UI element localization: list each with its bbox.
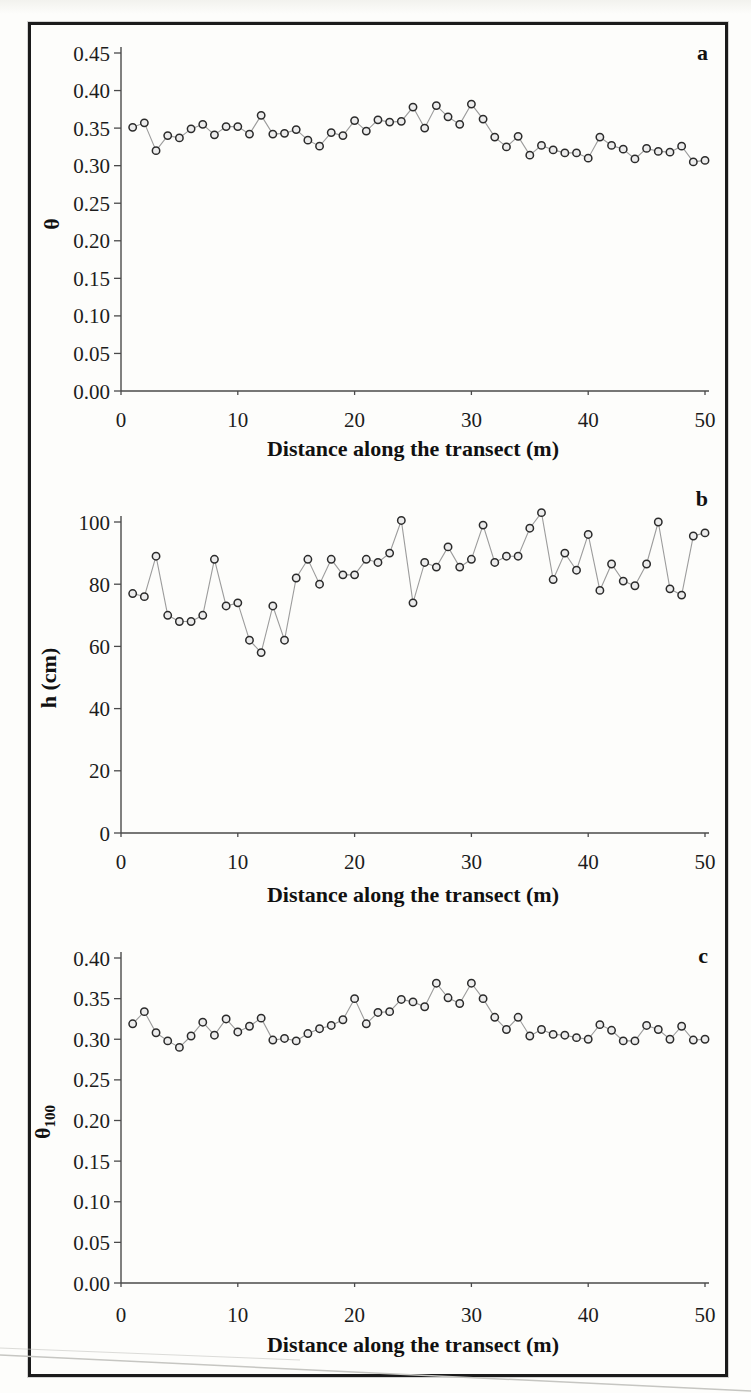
data-point <box>374 559 381 566</box>
data-point <box>444 543 451 550</box>
y-axis-title: θ <box>39 218 64 229</box>
data-point <box>129 590 136 597</box>
data-point <box>152 1029 159 1036</box>
data-point <box>141 1008 148 1015</box>
data-point <box>596 133 603 140</box>
data-point <box>666 585 673 592</box>
data-point <box>211 1031 218 1038</box>
data-series-line <box>133 983 705 1047</box>
data-point <box>234 599 241 606</box>
data-point <box>479 115 486 122</box>
data-point <box>526 1032 533 1039</box>
data-point <box>596 1021 603 1028</box>
data-point <box>293 126 300 133</box>
data-point <box>549 1031 556 1038</box>
data-point <box>479 521 486 528</box>
y-axis-title: h (cm) <box>36 648 61 708</box>
data-point <box>608 560 615 567</box>
data-point <box>538 509 545 516</box>
data-point <box>701 529 708 536</box>
data-point <box>398 118 405 125</box>
data-point <box>328 129 335 136</box>
data-point <box>573 1034 580 1041</box>
panel-letter: a <box>697 40 708 65</box>
x-tick-label: 20 <box>344 408 365 432</box>
data-point <box>257 112 264 119</box>
data-point <box>678 591 685 598</box>
data-point <box>211 131 218 138</box>
y-tick-label: 0.00 <box>73 380 110 404</box>
data-point <box>281 130 288 137</box>
y-tick-label: 0.20 <box>73 1109 110 1133</box>
data-point <box>561 549 568 556</box>
data-point <box>468 979 475 986</box>
x-tick-label: 0 <box>116 1303 127 1327</box>
scan-artifact-diagonal <box>0 1355 751 1391</box>
data-point <box>643 560 650 567</box>
data-point <box>211 556 218 563</box>
data-point <box>316 142 323 149</box>
panel-a: 0.450.400.350.300.250.200.150.100.050.00… <box>39 40 716 461</box>
data-point <box>479 995 486 1002</box>
data-point <box>152 147 159 154</box>
data-point <box>199 1018 206 1025</box>
data-point <box>351 995 358 1002</box>
data-point <box>164 612 171 619</box>
data-point <box>655 518 662 525</box>
data-point <box>526 151 533 158</box>
data-point <box>316 581 323 588</box>
x-axis-title: Distance along the transect (m) <box>267 1332 559 1357</box>
data-point <box>141 593 148 600</box>
data-point <box>503 1026 510 1033</box>
data-point <box>176 618 183 625</box>
data-point <box>129 1020 136 1027</box>
data-point <box>421 559 428 566</box>
data-point <box>503 143 510 150</box>
data-point <box>246 1023 253 1030</box>
data-point <box>655 1026 662 1033</box>
data-point <box>176 1044 183 1051</box>
data-point <box>164 132 171 139</box>
data-point <box>386 549 393 556</box>
x-tick-label: 0 <box>116 408 127 432</box>
data-point <box>538 1026 545 1033</box>
data-point <box>398 996 405 1003</box>
data-point <box>129 124 136 131</box>
y-tick-label: 20 <box>89 759 110 783</box>
scanned-page-background: 0.450.400.350.300.250.200.150.100.050.00… <box>0 0 751 1393</box>
y-tick-label: 0.20 <box>73 229 110 253</box>
data-point <box>351 117 358 124</box>
y-tick-label: 80 <box>89 573 110 597</box>
data-point <box>234 123 241 130</box>
data-point <box>409 103 416 110</box>
data-point <box>222 123 229 130</box>
panel-b: 10080604020001020304050Distance along th… <box>36 486 716 907</box>
data-point <box>690 1036 697 1043</box>
data-point <box>631 155 638 162</box>
figure-chart-svg: 0.450.400.350.300.250.200.150.100.050.00… <box>0 0 751 1393</box>
data-point <box>328 1022 335 1029</box>
data-point <box>655 148 662 155</box>
data-point <box>573 149 580 156</box>
data-point <box>514 553 521 560</box>
data-point <box>293 574 300 581</box>
data-point <box>456 121 463 128</box>
data-point <box>678 1023 685 1030</box>
x-tick-label: 20 <box>344 1303 365 1327</box>
y-tick-label: 0.45 <box>73 42 110 66</box>
data-point <box>386 1008 393 1015</box>
data-point <box>690 158 697 165</box>
y-tick-label: 0.15 <box>73 1150 110 1174</box>
y-tick-label: 60 <box>89 635 110 659</box>
data-point <box>444 113 451 120</box>
y-tick-label: 0.10 <box>73 1190 110 1214</box>
x-tick-label: 10 <box>227 850 248 874</box>
data-point <box>666 1036 673 1043</box>
panel-c: 0.400.350.300.250.200.150.100.050.000102… <box>30 943 716 1357</box>
data-point <box>328 556 335 563</box>
y-tick-label: 0.25 <box>73 1068 110 1092</box>
panel-letter: c <box>698 943 708 968</box>
y-tick-label: 0.15 <box>73 267 110 291</box>
data-point <box>199 121 206 128</box>
data-point <box>573 567 580 574</box>
